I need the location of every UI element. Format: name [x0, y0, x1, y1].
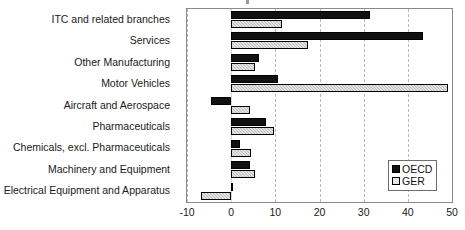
- gridline-50: [452, 9, 453, 202]
- x-tick-label-50: 50: [446, 206, 458, 218]
- x-tick-label-10: 10: [269, 206, 281, 218]
- bar-oecd: [211, 97, 231, 105]
- x-tick-label-0: 0: [228, 206, 234, 218]
- bar-chart: ITC and related branchesServicesOther Ma…: [0, 0, 465, 230]
- category-label: Aircraft and Aerospace: [64, 99, 170, 110]
- bar-ger: [231, 127, 274, 135]
- bar-oecd: [231, 183, 233, 191]
- category-label: Other Manufacturing: [74, 56, 170, 67]
- x-tick-label-30: 30: [358, 206, 370, 218]
- legend-label-ger: GER: [402, 175, 425, 187]
- legend-entry-oecd: OECD: [392, 163, 432, 175]
- x-tick-label--10: -10: [179, 206, 194, 218]
- bar-oecd: [231, 118, 265, 126]
- bar-group: [187, 9, 452, 30]
- legend-entry-ger: GER: [392, 175, 432, 187]
- bar-oecd: [231, 161, 250, 169]
- bar-ger: [231, 20, 282, 28]
- bar-group: [187, 95, 452, 116]
- category-axis-labels: ITC and related branchesServicesOther Ma…: [0, 8, 178, 203]
- x-tick-label-20: 20: [314, 206, 326, 218]
- bar-ger: [231, 149, 251, 157]
- bar-oecd: [231, 32, 423, 40]
- bar-ger: [231, 41, 308, 49]
- legend-label-oecd: OECD: [402, 163, 432, 175]
- bar-oecd: [231, 54, 259, 62]
- bar-group: [187, 52, 452, 73]
- category-label: Pharmaceuticals: [92, 120, 170, 131]
- bar-oecd: [231, 140, 240, 148]
- category-label: ITC and related branches: [52, 13, 170, 24]
- bar-oecd: [231, 11, 370, 19]
- black-square-swatch-icon: [392, 165, 400, 173]
- bar-ger: [231, 170, 254, 178]
- category-label: Motor Vehicles: [101, 78, 170, 89]
- category-label: Services: [130, 35, 170, 46]
- top-edge-artifact: [246, 0, 249, 4]
- light-gray-square-swatch-icon: [392, 177, 400, 185]
- bar-group: [187, 116, 452, 137]
- category-label: Chemicals, excl. Pharmaceuticals: [13, 142, 170, 153]
- bar-group: [187, 30, 452, 51]
- x-tick-label-40: 40: [402, 206, 414, 218]
- bar-ger: [231, 106, 250, 114]
- category-label: Electrical Equipment and Apparatus: [4, 185, 170, 196]
- category-label: Machinery and Equipment: [48, 163, 170, 174]
- bar-group: [187, 138, 452, 159]
- bar-group: [187, 73, 452, 94]
- chart-legend: OECD GER: [388, 160, 437, 191]
- x-axis-tick-labels: -1001020304050: [186, 204, 453, 224]
- bar-ger: [231, 84, 447, 92]
- bar-ger: [201, 192, 231, 200]
- bar-oecd: [231, 75, 277, 83]
- bar-ger: [231, 63, 255, 71]
